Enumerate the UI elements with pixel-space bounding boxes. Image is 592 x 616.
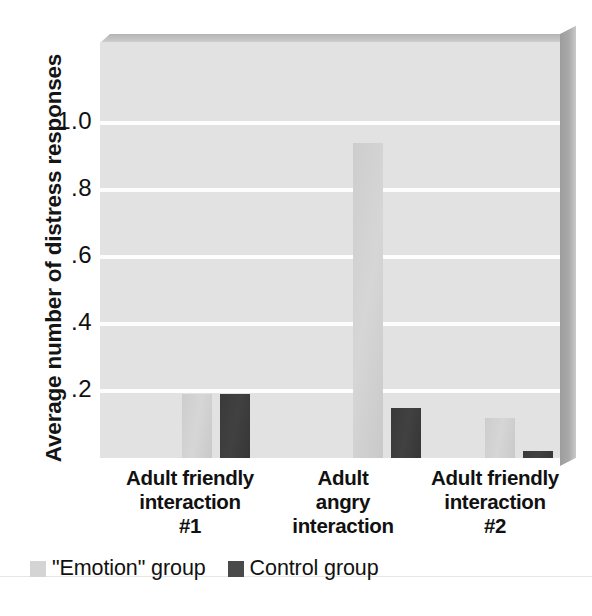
legend-item-control[interactable]: Control group (228, 556, 379, 581)
y-tick-label-.6: .6 (40, 241, 92, 269)
bar-control-group-3 (523, 451, 553, 458)
legend-label-control: Control group (250, 556, 379, 581)
gridline-.2 (100, 389, 560, 393)
x-category-label-line: Adult friendly (400, 466, 590, 490)
x-category-label-line: Adult friendly (95, 466, 285, 490)
legend-swatch-emotion-icon (30, 561, 46, 577)
bar-emotion-group-2 (353, 143, 383, 458)
bar-control-group-2 (391, 408, 421, 458)
x-category-label-1: Adult friendlyinteraction#1 (95, 466, 285, 537)
gridline-.8 (100, 188, 560, 192)
x-category-label-line: interaction (268, 514, 418, 538)
x-category-label-line: interaction (95, 490, 285, 514)
gridline-1.0 (100, 121, 560, 125)
legend-swatch-control-icon (228, 561, 244, 577)
x-category-label-line: #2 (400, 514, 590, 538)
gridline-.4 (100, 322, 560, 326)
x-category-label-line: #1 (95, 514, 285, 538)
y-tick-label-.8: .8 (40, 174, 92, 202)
bar-control-group-1 (220, 394, 250, 458)
bar-emotion-group-3 (485, 418, 515, 458)
gridline-.6 (100, 255, 560, 259)
x-category-label-2: Adultangryinteraction (268, 466, 418, 537)
legend-label-emotion: "Emotion" group (52, 556, 206, 581)
plot-area (100, 42, 560, 458)
x-category-label-line: Adult (268, 466, 418, 490)
legend-item-emotion[interactable]: "Emotion" group (30, 556, 206, 581)
plot-3d-right-bevel (560, 26, 576, 466)
x-category-label-line: angry (268, 490, 418, 514)
y-tick-label-.2: .2 (40, 375, 92, 403)
y-tick-label-.4: .4 (40, 308, 92, 336)
bar-chart-figure: Average number of distress responses .2.… (0, 0, 592, 616)
x-category-label-3: Adult friendlyinteraction#2 (400, 466, 590, 537)
y-tick-label-1.0: 1.0 (40, 107, 92, 135)
chart-legend: "Emotion" groupControl group (30, 556, 379, 581)
bar-emotion-group-1 (182, 394, 212, 458)
x-category-label-line: interaction (400, 490, 590, 514)
